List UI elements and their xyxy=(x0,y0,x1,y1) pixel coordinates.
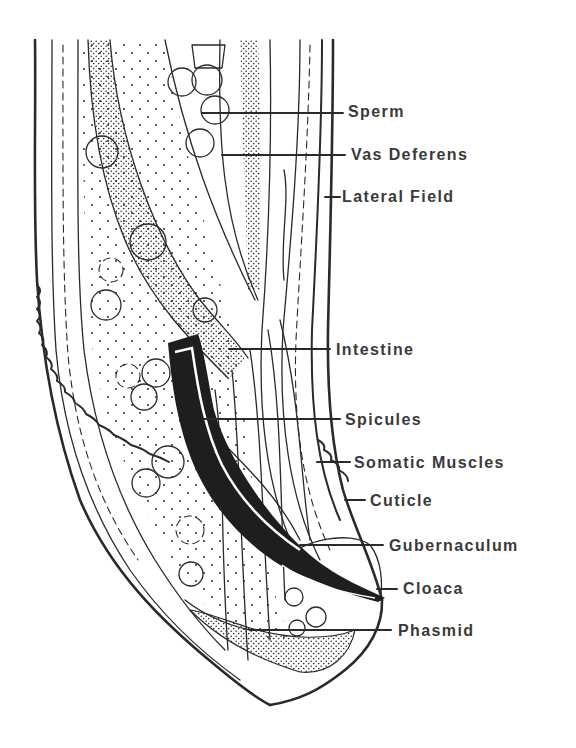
label-intestine: Intestine xyxy=(336,342,414,358)
label-spicules: Spicules xyxy=(345,412,422,428)
label-somatic-muscles: Somatic Muscles xyxy=(354,455,505,471)
label-sperm: Sperm xyxy=(348,104,405,120)
label-phasmid: Phasmid xyxy=(398,623,475,639)
label-cuticle: Cuticle xyxy=(370,493,433,509)
label-lateral-field: Lateral Field xyxy=(342,189,454,205)
label-vas-deferens: Vas Deferens xyxy=(351,147,468,163)
label-gubernaculum: Gubernaculum xyxy=(389,538,519,554)
nematode-tail-diagram xyxy=(0,0,576,748)
label-cloaca: Cloaca xyxy=(403,581,464,597)
